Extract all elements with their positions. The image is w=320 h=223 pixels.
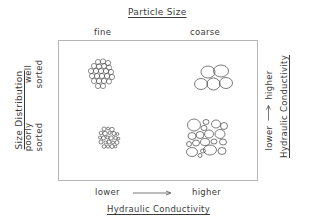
bottom-axis-lower: lower — [95, 187, 120, 197]
row-label-poorly-sorted: poorly sorted — [23, 117, 47, 157]
column-label-fine: fine — [94, 27, 111, 37]
row-label-well: well — [23, 54, 34, 94]
right-axis-higher: higher — [263, 71, 273, 100]
bottom-axis-higher: higher — [192, 187, 221, 197]
mixed-coarse-grain-cluster-icon — [185, 117, 229, 159]
arrow-right-icon — [133, 189, 173, 197]
bottom-hydraulic-conductivity-title: Hydraulic Conductivity — [107, 204, 210, 214]
arrow-right-icon — [265, 104, 271, 122]
column-label-coarse: coarse — [190, 27, 220, 37]
row-label-sorted: sorted — [34, 54, 45, 94]
right-axis-scale: lower higher — [263, 71, 274, 151]
mixed-fine-grain-cluster-icon — [96, 125, 122, 151]
row-label-well-sorted: well sorted — [23, 54, 47, 94]
coarse-grain-cluster-icon — [193, 63, 235, 93]
row-label-sorted: sorted — [34, 117, 45, 157]
right-hydraulic-conductivity-title: Hydraulic Conductivity — [279, 62, 289, 158]
row-label-poorly: poorly — [23, 117, 34, 157]
fine-grain-cluster-icon — [86, 57, 120, 91]
right-axis-lower: lower — [263, 126, 273, 151]
particle-size-title: Particle Size — [128, 7, 187, 17]
